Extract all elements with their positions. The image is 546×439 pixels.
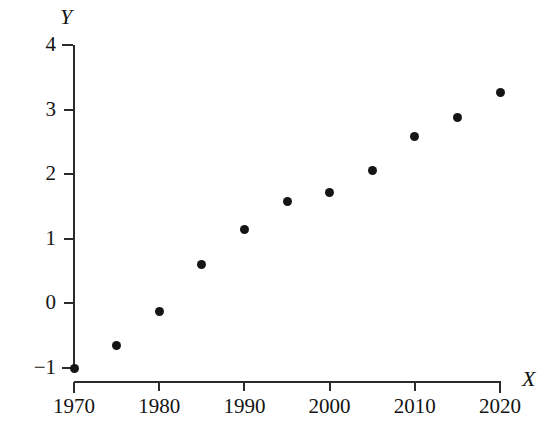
x-axis-tick-label: 2010 (375, 396, 455, 417)
data-point (325, 188, 334, 197)
x-axis-line (74, 381, 501, 383)
data-point (240, 225, 249, 234)
x-axis-tick (329, 382, 331, 391)
y-axis-tick (64, 238, 73, 240)
y-axis-title: Y (60, 6, 72, 28)
y-axis-tick-label: 1 (12, 228, 56, 249)
x-axis-tick (158, 382, 160, 391)
x-axis-tick (73, 382, 75, 393)
y-axis-tick (64, 109, 73, 111)
scatter-chart-figure: Y X −101234 197019801990200020102020 (0, 0, 546, 439)
x-axis-tick (243, 382, 245, 391)
y-axis-line (73, 45, 75, 370)
x-axis-title: X (522, 368, 535, 390)
data-point (368, 166, 377, 175)
y-axis-tick (64, 302, 73, 304)
data-point (496, 88, 505, 97)
data-point (453, 113, 462, 122)
data-point (155, 307, 164, 316)
data-point (410, 132, 419, 141)
y-axis-tick (62, 44, 73, 46)
data-point (197, 260, 206, 269)
y-axis-tick-label: 3 (12, 99, 56, 120)
x-axis-tick (414, 382, 416, 391)
data-point (283, 197, 292, 206)
y-axis-tick-label: −1 (12, 357, 56, 378)
x-axis-tick (499, 382, 501, 393)
x-axis-tick-label: 2020 (460, 396, 540, 417)
y-axis-tick-label: 2 (12, 163, 56, 184)
y-axis-tick-label: 4 (12, 34, 56, 55)
x-axis-tick-label: 2000 (290, 396, 370, 417)
data-point (70, 364, 79, 373)
data-point (112, 341, 121, 350)
x-axis-tick-label: 1990 (204, 396, 284, 417)
y-axis-tick (64, 173, 73, 175)
x-axis-tick-label: 1970 (34, 396, 114, 417)
y-axis-tick-label: 0 (12, 292, 56, 313)
x-axis-tick-label: 1980 (119, 396, 199, 417)
